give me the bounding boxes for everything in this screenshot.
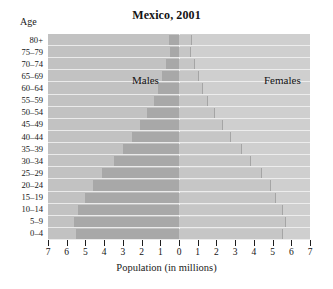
bar-female-80+: [179, 35, 192, 45]
x-tick-label: 4: [251, 247, 256, 257]
age-label-0–4: 0–4: [30, 229, 43, 238]
bar-male-0–4: [76, 229, 180, 239]
plot-area: Males Females: [48, 34, 310, 240]
x-tick-label: 4: [102, 247, 107, 257]
x-tick: [85, 240, 86, 246]
bar-female-75–79: [179, 47, 191, 57]
table-row: [48, 192, 310, 204]
x-tick: [48, 240, 49, 246]
table-row: [48, 143, 310, 155]
bar-female-0–4: [179, 229, 283, 239]
x-tick: [198, 240, 199, 246]
table-row: [48, 34, 310, 46]
bar-female-5–9: [179, 217, 286, 227]
x-tick-label: 7: [46, 247, 51, 257]
x-tick: [291, 240, 292, 246]
age-label-30–34: 30–34: [22, 157, 43, 166]
x-tick: [67, 240, 68, 246]
age-label-60–64: 60–64: [22, 84, 43, 93]
bar-male-70–74: [166, 59, 180, 69]
x-tick-label: 5: [270, 247, 275, 257]
bar-male-30–34: [114, 156, 181, 166]
age-label-80+: 80+: [30, 36, 43, 45]
bar-female-65–69: [179, 71, 199, 81]
table-row: [48, 131, 310, 143]
x-tick: [273, 240, 274, 246]
x-tick: [235, 240, 236, 246]
age-label-75–79: 75–79: [22, 48, 43, 57]
table-row: [48, 204, 310, 216]
bar-male-45–49: [140, 120, 180, 130]
x-tick-label: 7: [308, 247, 313, 257]
x-tick: [142, 240, 143, 246]
x-tick: [104, 240, 105, 246]
age-label-45–49: 45–49: [22, 120, 43, 129]
bar-male-65–69: [162, 71, 180, 81]
bar-male-25–29: [102, 168, 180, 178]
age-axis-labels: 80+75–7970–7465–6960–6455–5950–5445–4940…: [0, 34, 46, 240]
bar-male-60–64: [158, 83, 180, 93]
bar-female-35–39: [179, 144, 242, 154]
x-tick-label: 6: [289, 247, 294, 257]
chart-title: Mexico, 2001: [0, 8, 333, 23]
x-tick-label: 0: [177, 247, 182, 257]
table-row: [48, 95, 310, 107]
series-label-males: Males: [132, 74, 159, 86]
bar-male-20–24: [93, 180, 180, 190]
bar-female-60–64: [179, 83, 203, 93]
table-row: [48, 155, 310, 167]
table-row: [48, 107, 310, 119]
age-label-70–74: 70–74: [22, 60, 43, 69]
x-axis: 765432101234567: [48, 240, 310, 262]
table-row: [48, 58, 310, 70]
bar-female-45–49: [179, 120, 223, 130]
x-tick: [216, 240, 217, 246]
age-label-5–9: 5–9: [30, 217, 43, 226]
bar-male-5–9: [74, 217, 180, 227]
age-label-40–44: 40–44: [22, 133, 43, 142]
x-tick-label: 5: [83, 247, 88, 257]
y-axis-title: Age: [20, 16, 37, 27]
table-row: [48, 46, 310, 58]
bar-male-40–44: [132, 132, 180, 142]
bar-female-40–44: [179, 132, 231, 142]
age-label-50–54: 50–54: [22, 108, 43, 117]
x-tick: [179, 240, 180, 246]
x-tick-label: 3: [233, 247, 238, 257]
x-tick-label: 6: [64, 247, 69, 257]
age-label-25–29: 25–29: [22, 169, 43, 178]
x-tick: [123, 240, 124, 246]
x-axis-title: Population (in millions): [0, 262, 333, 273]
bar-female-10–14: [179, 205, 283, 215]
age-label-55–59: 55–59: [22, 96, 43, 105]
bar-male-10–14: [78, 205, 180, 215]
table-row: [48, 228, 310, 240]
age-label-10–14: 10–14: [22, 205, 43, 214]
table-row: [48, 179, 310, 191]
bar-male-55–59: [154, 96, 180, 106]
bar-female-20–24: [179, 180, 271, 190]
x-tick: [310, 240, 311, 246]
x-tick: [254, 240, 255, 246]
bar-female-55–59: [179, 96, 208, 106]
bar-female-50–54: [179, 108, 215, 118]
bar-female-15–19: [179, 193, 276, 203]
x-tick-label: 2: [214, 247, 219, 257]
bar-male-50–54: [147, 108, 180, 118]
x-tick-label: 2: [139, 247, 144, 257]
table-row: [48, 119, 310, 131]
x-tick-label: 3: [120, 247, 125, 257]
x-tick-label: 1: [195, 247, 200, 257]
series-label-females: Females: [264, 74, 301, 86]
table-row: [48, 216, 310, 228]
x-tick-label: 1: [158, 247, 163, 257]
age-label-65–69: 65–69: [22, 72, 43, 81]
bar-male-35–39: [123, 144, 180, 154]
bar-female-25–29: [179, 168, 262, 178]
bar-female-70–74: [179, 59, 195, 69]
bar-male-15–19: [85, 193, 180, 203]
bar-female-30–34: [179, 156, 251, 166]
population-pyramid-chart: Mexico, 2001 Age 80+75–7970–7465–6960–64…: [0, 0, 333, 289]
age-label-20–24: 20–24: [22, 181, 43, 190]
age-label-15–19: 15–19: [22, 193, 43, 202]
